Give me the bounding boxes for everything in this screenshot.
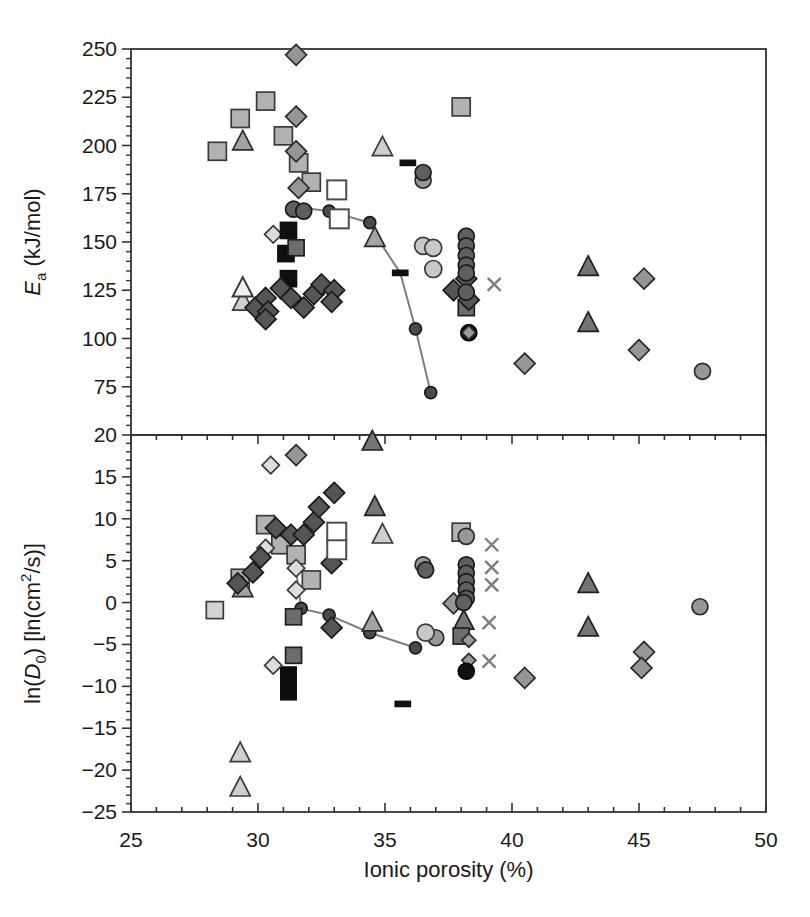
x-tick-label: 30 bbox=[246, 828, 269, 851]
data-point-circle_dark bbox=[458, 265, 474, 281]
series-square_white bbox=[327, 523, 346, 560]
data-point-square_gray bbox=[452, 98, 470, 116]
curve-dot bbox=[409, 323, 421, 335]
data-point-circle_dark bbox=[418, 562, 434, 578]
figure-background bbox=[0, 0, 810, 917]
y-tick-label: 15 bbox=[94, 465, 117, 488]
x-tick-label: 35 bbox=[373, 828, 396, 851]
x-axis-title: Ionic porosity (%) bbox=[364, 857, 534, 882]
data-point-square_white bbox=[327, 523, 346, 542]
data-point-dash_black bbox=[400, 160, 415, 165]
series-dash_black bbox=[395, 701, 410, 706]
data-point-square_gray bbox=[302, 571, 320, 589]
data-point-circle_gray bbox=[458, 528, 474, 544]
y-tick-label: −5 bbox=[93, 632, 117, 655]
y-tick-label: 175 bbox=[82, 182, 117, 205]
y-tick-label: 10 bbox=[94, 507, 117, 530]
data-point-square_light bbox=[206, 602, 223, 619]
data-point-circle_light bbox=[425, 261, 442, 278]
y-tick-label: −25 bbox=[81, 800, 117, 823]
data-point-circle_light bbox=[425, 239, 442, 256]
y-tick-label: 200 bbox=[82, 134, 117, 157]
series-circle_light bbox=[417, 624, 434, 641]
data-point-circle_dark bbox=[458, 284, 474, 300]
y-tick-label: 225 bbox=[82, 85, 117, 108]
y-tick-label: 250 bbox=[82, 37, 117, 60]
y-tick-label: 5 bbox=[105, 549, 117, 572]
scatter-figure: 253035404550Ionic porosity (%)2502252001… bbox=[0, 0, 810, 917]
data-point-circle_dark bbox=[456, 595, 472, 611]
series-square_light bbox=[206, 602, 223, 619]
x-tick-label: 45 bbox=[627, 828, 650, 851]
black-bar-marker bbox=[280, 666, 297, 700]
y-tick-label: 20 bbox=[94, 423, 117, 446]
data-point-circle_gray bbox=[695, 363, 711, 379]
data-point-circle_light bbox=[417, 624, 434, 641]
curve-dot bbox=[425, 387, 437, 399]
x-tick-label: 40 bbox=[500, 828, 523, 851]
y-tick-label: −10 bbox=[81, 674, 117, 697]
y-tick-label: 0 bbox=[105, 591, 117, 614]
data-point-square_dark bbox=[288, 240, 304, 256]
data-point-square_gray bbox=[231, 109, 249, 127]
data-point-square_black bbox=[280, 222, 296, 238]
data-point-circle_dark bbox=[296, 203, 312, 219]
y-axis-title: ln(D0) [ln(cm2/s)] bbox=[17, 543, 49, 704]
x-tick-label: 25 bbox=[119, 828, 142, 851]
data-point-circle_gray bbox=[692, 599, 708, 615]
series-circle_black bbox=[458, 663, 474, 679]
data-point-dash_black bbox=[393, 270, 408, 275]
data-point-square_gray bbox=[208, 142, 226, 160]
y-tick-label: 75 bbox=[94, 375, 117, 398]
data-point-square_gray bbox=[257, 92, 275, 110]
data-point-square_dark bbox=[286, 609, 302, 625]
data-point-square_white bbox=[327, 540, 346, 559]
data-point-square_white bbox=[327, 180, 346, 199]
data-point-square_gray bbox=[274, 127, 292, 145]
figure-page: 253035404550Ionic porosity (%)2502252001… bbox=[0, 0, 810, 917]
x-tick-label: 50 bbox=[754, 828, 777, 851]
y-tick-label: 100 bbox=[82, 327, 117, 350]
data-point-circle_dark bbox=[415, 165, 431, 181]
data-point-dash_black bbox=[395, 701, 410, 706]
y-tick-label: −15 bbox=[81, 716, 117, 739]
data-point-square_white bbox=[330, 209, 349, 228]
y-tick-label: 150 bbox=[82, 230, 117, 253]
y-tick-label: −20 bbox=[81, 758, 117, 781]
curve-dot bbox=[409, 642, 421, 654]
data-point-circle_black bbox=[458, 663, 474, 679]
y-tick-label: 125 bbox=[82, 278, 117, 301]
data-point-square_dark bbox=[286, 647, 302, 663]
